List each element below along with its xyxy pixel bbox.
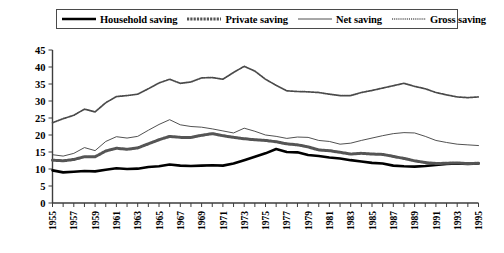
x-axis-tick-label: 1957 bbox=[69, 211, 79, 230]
x-axis-tick-label: 1985 bbox=[368, 211, 378, 230]
x-axis-tick-label: 1989 bbox=[410, 211, 420, 230]
y-axis-tick-label: 35 bbox=[35, 79, 46, 90]
x-axis-tick-label: 1969 bbox=[197, 211, 207, 230]
y-axis-tick-label: 10 bbox=[35, 164, 46, 175]
y-axis-tick-label: 40 bbox=[35, 62, 46, 73]
y-axis-tick-label: 25 bbox=[35, 113, 46, 124]
x-axis-tick-label: 1967 bbox=[176, 211, 186, 230]
x-axis-tick-label: 1981 bbox=[325, 211, 335, 230]
x-axis-tick-label: 1975 bbox=[261, 211, 271, 230]
x-axis-tick-label: 1977 bbox=[282, 211, 292, 230]
data-series-group bbox=[53, 66, 479, 172]
x-axis-tick-label: 1983 bbox=[346, 211, 356, 230]
x-axis-tick-label: 1955 bbox=[48, 211, 58, 230]
chart-plot-area: 051015202530354045 195519571959196119631… bbox=[0, 0, 504, 253]
x-axis-tick-label: 1987 bbox=[389, 211, 399, 230]
x-axis-tick-label: 1961 bbox=[112, 211, 122, 230]
y-axis-tick-label: 0 bbox=[40, 198, 45, 209]
x-axis: 1955195719591961196319651967196919711973… bbox=[48, 203, 484, 230]
series-line-net-saving bbox=[53, 120, 479, 156]
x-axis-tick-label: 1963 bbox=[133, 211, 143, 230]
y-axis-tick-label: 30 bbox=[35, 96, 46, 107]
x-axis-tick-label: 1993 bbox=[453, 211, 463, 230]
x-axis-tick-label: 1991 bbox=[432, 211, 442, 230]
x-axis-tick-label: 1965 bbox=[155, 211, 165, 230]
y-axis-tick-label: 20 bbox=[35, 130, 46, 141]
x-axis-tick-label: 1971 bbox=[219, 211, 229, 230]
y-axis-tick-label: 15 bbox=[35, 147, 46, 158]
x-axis-tick-label: 1959 bbox=[91, 211, 101, 230]
x-axis-tick-label: 1995 bbox=[474, 211, 484, 230]
y-axis: 051015202530354045 bbox=[35, 45, 53, 209]
x-axis-tick-label: 1973 bbox=[240, 211, 250, 230]
x-axis-tick-label: 1979 bbox=[304, 211, 314, 230]
series-line-private-saving bbox=[53, 134, 479, 164]
chart-figure: Household saving Private saving Net savi… bbox=[0, 0, 504, 253]
y-axis-tick-label: 45 bbox=[35, 45, 46, 56]
series-line-gross-saving bbox=[53, 66, 479, 122]
y-axis-tick-label: 5 bbox=[40, 181, 45, 192]
